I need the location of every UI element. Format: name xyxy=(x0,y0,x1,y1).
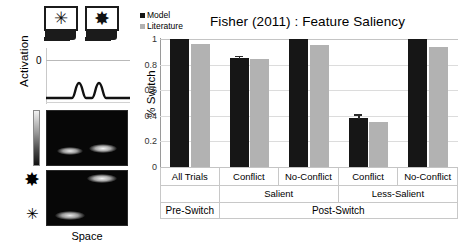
y-axis-tick: 0.6 xyxy=(144,85,157,95)
stimulus-monitor-row: ✳ ✸ xyxy=(44,6,120,46)
heat-blob xyxy=(55,211,85,220)
heat-blob xyxy=(87,174,117,183)
activation-zero-tick: 0 xyxy=(36,55,42,66)
activation-curve xyxy=(46,64,130,104)
saliency-group-row: SalientLess-Salient xyxy=(160,185,458,203)
chart-legend: Model Literature xyxy=(140,10,183,32)
chart-title: Fisher (2011) : Feature Saliency xyxy=(210,14,405,29)
bar-model xyxy=(349,118,368,167)
y-axis-tick: 0.2 xyxy=(144,136,157,146)
bar-literature xyxy=(310,45,329,167)
space-axis-label: Space xyxy=(46,230,128,242)
bold-asterisk-icon: ✸ xyxy=(24,170,40,189)
heat-blob xyxy=(89,144,117,153)
y-axis-line xyxy=(160,38,161,168)
thin-star-icon: ✳ xyxy=(26,207,39,222)
switch-phase-label: Post-Switch xyxy=(220,202,458,219)
category-label: All Trials xyxy=(160,168,220,185)
legend-swatch-model xyxy=(140,13,145,18)
error-bar-cap xyxy=(235,56,243,57)
bold-asterisk-icon: ✸ xyxy=(94,9,110,28)
plot-area: 00.20.40.60.81 xyxy=(160,38,458,168)
legend-label-model: Model xyxy=(147,10,170,21)
switch-phase-group-row: Pre-SwitchPost-Switch xyxy=(160,202,458,219)
monitor-thin-star: ✳ xyxy=(44,6,78,44)
heat-blob xyxy=(57,147,83,155)
bar-model xyxy=(408,39,427,167)
saliency-group-label xyxy=(160,185,220,202)
bar-chart-panel: Model Literature Fisher (2011) : Feature… xyxy=(132,0,466,250)
bar-literature xyxy=(369,122,388,167)
category-label-row: All TrialsConflictNo-ConflictConflictNo-… xyxy=(160,168,458,186)
saliency-group-label: Less-Salient xyxy=(339,185,458,202)
heatmap-post-switch xyxy=(46,170,128,226)
y-axis-tick: 0.8 xyxy=(144,60,157,70)
bar-model xyxy=(289,39,308,167)
legend-item-model: Model xyxy=(140,10,183,21)
activation-plot xyxy=(46,48,130,104)
monitor-bold-asterisk: ✸ xyxy=(85,6,119,44)
bar-literature xyxy=(250,59,269,167)
monitor-base xyxy=(86,31,117,40)
category-label: Conflict xyxy=(220,168,280,185)
error-bar-cap xyxy=(354,114,362,115)
y-axis-tick: 1 xyxy=(152,34,157,44)
error-bar xyxy=(239,57,240,59)
saliency-group-label: Salient xyxy=(220,185,339,202)
figure-root: ✳ ✸ Activation 0 xyxy=(0,0,466,250)
activation-axis-label: Activation xyxy=(18,21,30,101)
category-label: No-Conflict xyxy=(398,168,458,185)
left-schematic-panel: ✳ ✸ Activation 0 xyxy=(0,0,132,250)
y-axis-tick: 0 xyxy=(152,162,157,172)
activation-zero-line xyxy=(46,60,130,61)
bar-literature xyxy=(429,47,448,167)
thin-star-icon: ✳ xyxy=(54,10,68,27)
activation-colorbar xyxy=(33,110,40,166)
category-label: Conflict xyxy=(339,168,399,185)
bar-model xyxy=(230,58,249,167)
legend-label-literature: Literature xyxy=(147,21,183,32)
heatmap-pre-switch xyxy=(46,110,128,166)
bar-model xyxy=(170,39,189,167)
legend-item-literature: Literature xyxy=(140,21,183,32)
monitor-screen: ✳ xyxy=(44,6,78,31)
error-bar xyxy=(358,116,359,120)
legend-swatch-literature xyxy=(140,24,145,29)
switch-phase-label: Pre-Switch xyxy=(160,202,220,219)
monitor-screen: ✸ xyxy=(85,6,119,31)
monitor-base xyxy=(45,31,76,40)
bar-literature xyxy=(191,44,210,167)
category-label: No-Conflict xyxy=(279,168,339,185)
y-axis-tick: 0.4 xyxy=(144,111,157,121)
